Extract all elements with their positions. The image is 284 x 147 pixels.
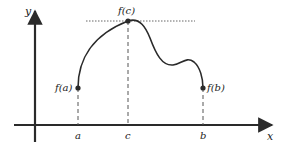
- point-label-f-c: f(c): [117, 5, 135, 16]
- point-f-c: [125, 18, 130, 23]
- tick-label-c: c: [125, 130, 131, 141]
- point-f-b: [200, 85, 205, 90]
- point-label-f-a: f(a): [54, 82, 73, 93]
- tick-label-a: a: [75, 130, 81, 141]
- tick-label-b: b: [200, 130, 206, 141]
- point-f-a: [75, 85, 80, 90]
- point-label-f-b: f(b): [206, 82, 225, 93]
- extreme-value-diagram: y x a c b f(a) f(c) f(b): [0, 0, 284, 147]
- x-axis-label: x: [267, 130, 274, 143]
- y-axis-label: y: [24, 5, 32, 18]
- function-curve: [78, 20, 203, 88]
